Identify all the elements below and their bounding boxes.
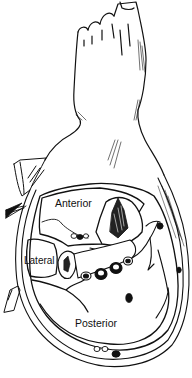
skin-strip <box>4 286 20 312</box>
fibula <box>58 251 76 278</box>
arrow-indicator <box>6 203 26 218</box>
vessels-bottom <box>94 346 120 357</box>
tibia <box>96 198 143 247</box>
foot-outline <box>45 2 164 175</box>
vessels-deep <box>74 240 136 280</box>
label-lateral: Lateral <box>24 256 55 266</box>
posterior-compartment <box>32 280 169 344</box>
leg-cross-section-figure: Anterior Lateral Posterior <box>0 0 192 378</box>
label-posterior: Posterior <box>75 318 117 329</box>
label-anterior: Anterior <box>55 198 92 209</box>
foot-hatching <box>76 40 145 168</box>
